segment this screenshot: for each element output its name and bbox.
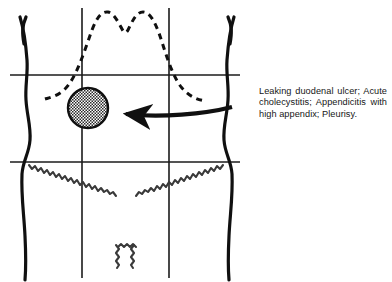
caption-text: Leaking duodenal ulcer; Acute cholecysti… bbox=[259, 86, 387, 120]
figure-root: Leaking duodenal ulcer; Acute cholecysti… bbox=[0, 0, 392, 282]
pain-site-circle bbox=[68, 88, 108, 128]
figure-background bbox=[0, 0, 250, 282]
caption-block: Leaking duodenal ulcer; Acute cholecysti… bbox=[259, 86, 387, 120]
anatomy-illustration bbox=[0, 0, 250, 282]
